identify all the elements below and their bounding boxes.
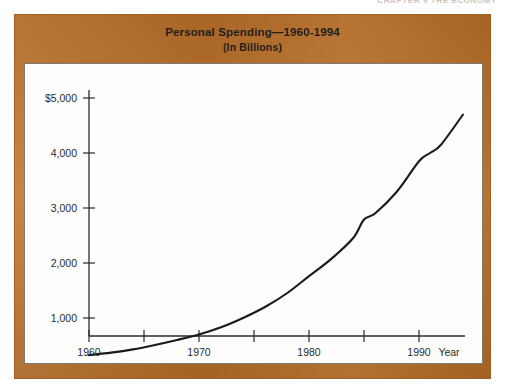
figure-subtitle: (In Billions): [223, 40, 282, 54]
figure-frame: Personal Spending—1960-1994 (In Billions…: [14, 14, 491, 379]
running-head: CHAPTER 9 THE ECONOMY: [0, 0, 505, 10]
line-chart: $5,0004,0003,0002,0001,000 1960197019801…: [25, 64, 482, 363]
spending-line-series: [89, 115, 463, 356]
y-tick-label-3000: 3,000: [51, 202, 77, 214]
y-tick-label-2000: 2,000: [51, 257, 77, 269]
x-tick-label-1980: 1980: [297, 346, 321, 358]
running-head-text: CHAPTER 9 THE ECONOMY: [377, 0, 497, 5]
y-tick-label-1000: 1,000: [51, 312, 77, 324]
figure-title: Personal Spending—1960-1994: [165, 25, 340, 40]
x-axis-labels: 1960197019801990: [77, 346, 431, 358]
y-tick-label-5000: $5,000: [45, 92, 77, 104]
figure-title-band: Personal Spending—1960-1994 (In Billions…: [15, 15, 490, 63]
x-tick-label-1960: 1960: [77, 346, 101, 358]
x-axis-title: Year: [438, 346, 460, 358]
x-tick-label-1970: 1970: [187, 346, 211, 358]
x-tick-label-1990: 1990: [407, 346, 431, 358]
y-tick-label-4000: 4,000: [51, 147, 77, 159]
y-axis-labels: $5,0004,0003,0002,0001,000: [45, 92, 77, 324]
plot-panel: $5,0004,0003,0002,0001,000 1960197019801…: [24, 63, 483, 364]
